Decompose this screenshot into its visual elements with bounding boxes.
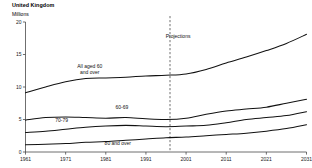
y-tick-label: 10 [16, 84, 22, 90]
series-line [26, 125, 307, 145]
projections-label: Projections [166, 33, 191, 39]
y-tick-label: 5 [19, 116, 22, 122]
x-tick-label: 2021 [261, 156, 272, 162]
line-chart-canvas: 0510152019611971198119912001201120212031… [0, 0, 312, 168]
series-label-60-69: 60-69 [115, 104, 128, 110]
chart-figure: United Kingdom Millions 0510152019611971… [0, 0, 312, 168]
x-tick-label: 1961 [20, 156, 31, 162]
x-tick-label: 2001 [181, 156, 192, 162]
y-tick-label: 20 [16, 19, 22, 25]
y-tick-label: 15 [16, 51, 22, 57]
x-tick-label: 2031 [301, 156, 312, 162]
series-label-70-79: 70-79 [55, 117, 68, 123]
series-label-80-plus: 80 and over [105, 140, 132, 146]
x-tick-label: 1991 [140, 156, 151, 162]
series-label-all-60-plus: All aged 60and over [77, 63, 102, 75]
x-tick-label: 1971 [60, 156, 71, 162]
x-tick-label: 1981 [100, 156, 111, 162]
series-line [26, 34, 307, 93]
y-tick-label: 0 [19, 149, 22, 155]
x-tick-label: 2011 [221, 156, 232, 162]
